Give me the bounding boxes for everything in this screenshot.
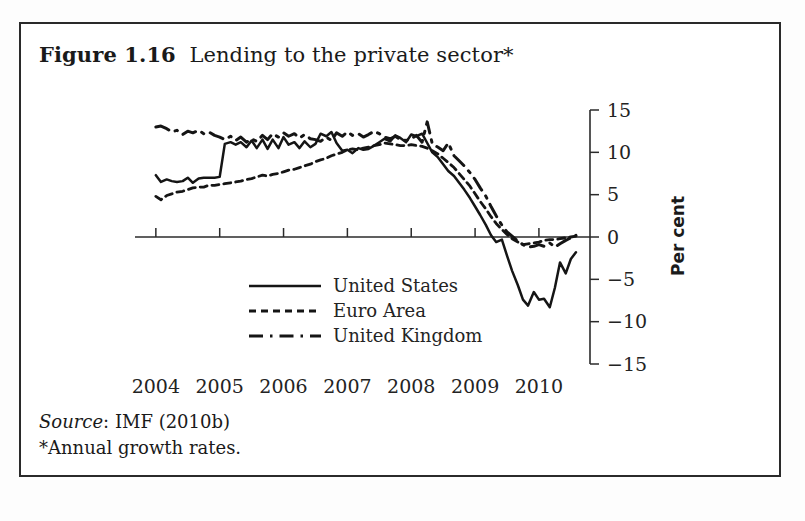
x-tick-label: 2004 [132, 375, 180, 397]
y-tick-label: 5 [607, 183, 619, 205]
y-tick-label: −15 [607, 353, 647, 375]
legend-label: United Kingdom [333, 325, 482, 346]
y-tick-label: −10 [607, 310, 647, 332]
y-tick-label: 0 [607, 226, 619, 248]
chart-axis-title: Per cent [668, 196, 688, 276]
source-word: Source [39, 411, 103, 432]
source-reference: : IMF (2010b) [103, 411, 230, 432]
x-tick-label: 2009 [451, 375, 499, 397]
legend-label: United States [333, 275, 458, 296]
series-line [156, 143, 576, 245]
x-tick-label: 2005 [196, 375, 244, 397]
x-tick-label: 2010 [515, 375, 563, 397]
legend-label: Euro Area [333, 300, 426, 321]
y-tick-label: 15 [607, 99, 631, 121]
footnote-line: *Annual growth rates. [39, 435, 241, 461]
page-canvas: Figure 1.16 Lending to the private secto… [0, 0, 805, 521]
source-note-block: Source: IMF (2010b) *Annual growth rates… [39, 409, 241, 460]
x-tick-label: 2006 [259, 375, 307, 397]
y-tick-label: −5 [607, 268, 635, 290]
source-line: Source: IMF (2010b) [39, 409, 241, 435]
y-axis-title: Per cent [668, 196, 688, 276]
x-tick-label: 2008 [387, 375, 435, 397]
chart-legend: United StatesEuro AreaUnited Kingdom [249, 275, 482, 346]
figure-frame: Figure 1.16 Lending to the private secto… [19, 22, 781, 477]
y-tick-label: 10 [607, 141, 631, 163]
x-tick-label: 2007 [323, 375, 371, 397]
